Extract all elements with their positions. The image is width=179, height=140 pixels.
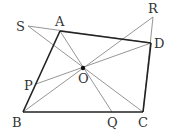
label-A: A (54, 14, 65, 29)
label-B: B (12, 115, 22, 130)
segment-PD (36, 43, 151, 84)
side-AB (23, 31, 60, 112)
side-DA (60, 31, 151, 43)
label-D: D (154, 36, 164, 51)
label-S: S (16, 19, 25, 34)
side-CD (143, 43, 151, 112)
thin-lines (23, 17, 153, 112)
label-O: O (78, 71, 89, 86)
geometry-diagram: A B C D O P Q R S (0, 0, 179, 140)
point-O-dot (81, 66, 85, 70)
label-R: R (148, 1, 159, 16)
label-Q: Q (107, 115, 118, 130)
segment-BR (23, 17, 153, 112)
label-C: C (138, 115, 148, 130)
label-P: P (24, 78, 33, 93)
